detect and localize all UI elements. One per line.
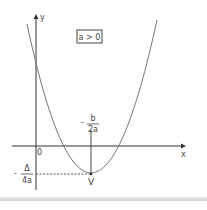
x-axis-label: x (181, 150, 186, 159)
vertex-point (90, 173, 93, 176)
vertex-label: V (88, 177, 95, 187)
parabola-diagram: y x 0 a > 0 - b 2a - Δ 4a V (0, 0, 207, 210)
x-axis-arrow-icon (181, 144, 186, 149)
vertex-x-denominator: 2a (88, 125, 98, 134)
y-axis-arrow-icon (34, 14, 39, 19)
vertex-x-sign: - (81, 118, 84, 127)
vertex-y-sign: - (14, 169, 17, 178)
vertex-x-numerator: b (90, 114, 95, 123)
condition-label: a > 0 (79, 33, 101, 42)
bottom-divider (0, 197, 207, 201)
y-axis-label: y (40, 13, 45, 22)
vertex-y-numerator: Δ (24, 164, 30, 173)
vertex-y-denominator: 4a (22, 176, 32, 185)
origin-label: 0 (37, 148, 42, 157)
